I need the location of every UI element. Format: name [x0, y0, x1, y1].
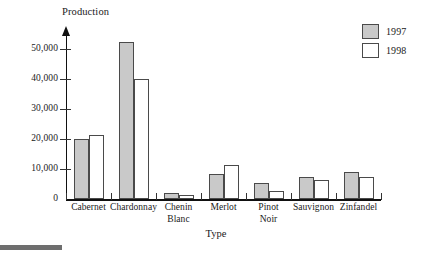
y-axis-tick-label: 50,000	[31, 43, 58, 53]
bar-chenin-blanc-1998	[179, 195, 194, 199]
x-axis-tick	[111, 193, 112, 200]
bar-cabernet-1997	[74, 139, 89, 199]
y-axis-tick-label-wrap: 10,000	[10, 163, 58, 175]
bar-pinot-noir-1997	[254, 183, 269, 200]
y-axis-tick	[60, 139, 71, 140]
bottom-rule-artifact	[0, 245, 62, 250]
y-axis-tick-label: 20,000	[31, 133, 58, 143]
bar-zinfandel-1997	[344, 172, 359, 199]
x-axis-tick	[246, 193, 247, 200]
legend-swatch-1997	[362, 24, 379, 39]
bar-chardonnay-1997	[119, 42, 134, 200]
y-axis-tick-label-wrap: 20,000	[10, 133, 58, 145]
y-axis-tick	[60, 169, 71, 170]
y-axis-line	[66, 34, 67, 200]
bar-chenin-blanc-1997	[164, 193, 179, 199]
y-axis-tick-label: 30,000	[31, 103, 58, 113]
bar-pinot-noir-1998	[269, 191, 284, 199]
x-axis-line	[66, 199, 381, 201]
bar-chardonnay-1998	[134, 79, 149, 199]
y-axis-tick-label-wrap: 50,000	[10, 43, 58, 55]
x-axis-tick	[156, 193, 157, 200]
x-axis-tick	[66, 193, 67, 200]
bar-cabernet-1998	[89, 135, 104, 200]
y-axis-tick	[60, 49, 71, 50]
y-axis-tick-label-wrap: 40,000	[10, 73, 58, 85]
bar-sauvignon-1997	[299, 177, 314, 199]
category-label-zinfandel: Zinfandel	[319, 202, 399, 214]
y-axis-tick	[60, 79, 71, 80]
x-axis-tick	[336, 193, 337, 200]
y-axis-tick-label: 10,000	[31, 163, 58, 173]
x-axis-title: Type	[0, 228, 432, 239]
x-axis-tick	[291, 193, 292, 200]
legend-label-1997: 1997	[386, 26, 406, 37]
category-label-line: Noir	[229, 214, 309, 226]
bar-merlot-1998	[224, 165, 239, 200]
y-axis-tick-label-wrap: 30,000	[10, 103, 58, 115]
legend-item-1998: 1998	[362, 41, 406, 60]
bar-sauvignon-1998	[314, 180, 329, 199]
legend-item-1997: 1997	[362, 22, 406, 41]
bar-chart-figure: Production 010,00020,00030,00040,00050,0…	[0, 0, 432, 260]
category-label-line: Blanc	[139, 214, 219, 226]
y-axis-tick	[60, 109, 71, 110]
legend-swatch-1998	[362, 43, 379, 58]
chart-legend: 19971998	[362, 22, 406, 60]
bar-merlot-1997	[209, 174, 224, 199]
category-label-line: Zinfandel	[319, 202, 399, 214]
y-axis-title: Production	[62, 6, 109, 17]
x-axis-tick	[201, 193, 202, 200]
y-axis-tick-label: 40,000	[31, 73, 58, 83]
legend-label-1998: 1998	[386, 45, 406, 56]
bar-zinfandel-1998	[359, 177, 374, 200]
x-axis-tick	[381, 193, 382, 200]
